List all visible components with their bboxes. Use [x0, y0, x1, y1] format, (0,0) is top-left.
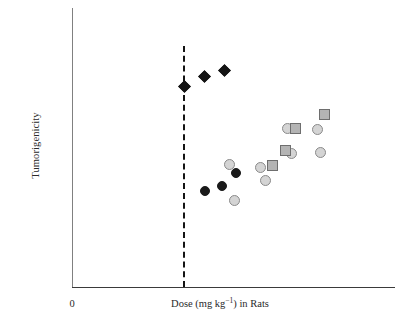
data-point-black-diamonds: [178, 80, 191, 93]
data-point-light-gray-circles: [260, 175, 271, 186]
y-axis-label: Tumorigenicity: [30, 86, 41, 206]
data-point-black-circles: [231, 168, 241, 178]
data-point-gray-squares: [267, 160, 278, 171]
plot-area: [0, 0, 411, 331]
data-point-light-gray-circles: [312, 124, 323, 135]
x-axis-tick-label-0: 0: [64, 298, 80, 309]
x-axis-label-after: ) in Rats: [233, 298, 269, 309]
data-point-light-gray-circles: [315, 147, 326, 158]
x-axis-label-before: Dose (mg kg: [171, 298, 225, 309]
data-point-black-diamonds: [198, 70, 211, 83]
data-point-black-diamonds: [218, 64, 231, 77]
data-point-gray-squares: [290, 123, 301, 134]
data-point-light-gray-circles: [255, 162, 266, 173]
data-point-black-circles: [217, 181, 227, 191]
x-axis-label: Dose (mg kg−1) in Rats: [120, 298, 320, 309]
data-point-light-gray-circles: [229, 195, 240, 206]
data-point-black-circles: [200, 186, 210, 196]
data-point-gray-squares: [280, 145, 291, 156]
data-point-light-gray-circles: [224, 159, 235, 170]
scatter-plot-figure: Tumorigenicity Dose (mg kg−1) in Rats 0: [0, 0, 411, 331]
data-point-gray-squares: [319, 109, 330, 120]
